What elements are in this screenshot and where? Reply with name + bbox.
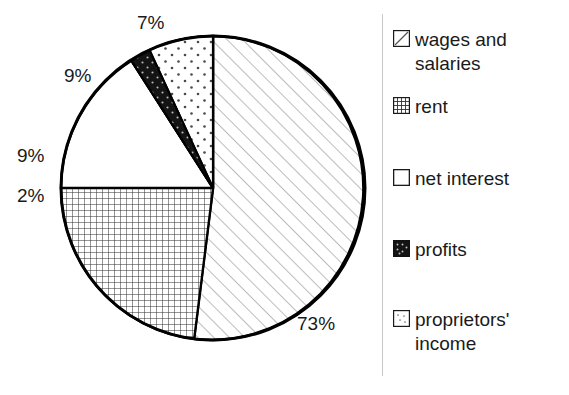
diagonal-hatch-swatch-icon bbox=[393, 30, 410, 47]
legend-item-rent[interactable]: rent bbox=[393, 95, 448, 119]
legend-item-profits[interactable]: profits bbox=[393, 238, 467, 262]
pie-label-proprietors-income: 7% bbox=[137, 12, 164, 34]
pie-chart-area: 7% 9% 9% 2% 73% bbox=[0, 0, 382, 395]
pie-label-rent: 2% bbox=[17, 185, 44, 207]
legend-label-rent: rent bbox=[415, 95, 448, 119]
legend-label-net-interest: net interest bbox=[415, 167, 509, 191]
legend-item-proprietors-income[interactable]: proprietors' income bbox=[393, 308, 509, 356]
empty-swatch-icon bbox=[393, 169, 410, 186]
chart-legend: wages and salaries rent bbox=[382, 0, 569, 395]
sparse-dots-swatch-icon bbox=[393, 310, 410, 327]
pie-chart-figure: 7% 9% 9% 2% 73% wages and salaries bbox=[0, 0, 569, 395]
legend-item-net-interest[interactable]: net interest bbox=[393, 167, 509, 191]
pie-slice-rent bbox=[61, 188, 213, 339]
legend-label-profits: profits bbox=[415, 238, 467, 262]
legend-item-wages-and-salaries[interactable]: wages and salaries bbox=[393, 28, 507, 76]
pie-label-profits: 9% bbox=[64, 65, 91, 87]
black-dots-swatch-icon bbox=[393, 240, 410, 257]
legend-label-wages-and-salaries: wages and salaries bbox=[415, 28, 507, 76]
legend-divider bbox=[382, 14, 383, 376]
pie-label-wages-and-salaries: 73% bbox=[297, 313, 335, 335]
pie-label-net-interest: 9% bbox=[17, 145, 44, 167]
pie-chart-svg bbox=[0, 0, 382, 395]
pie-slice-wages-and-salaries bbox=[194, 36, 363, 340]
grid-swatch-icon bbox=[393, 97, 410, 114]
legend-label-proprietors-income: proprietors' income bbox=[415, 308, 509, 356]
